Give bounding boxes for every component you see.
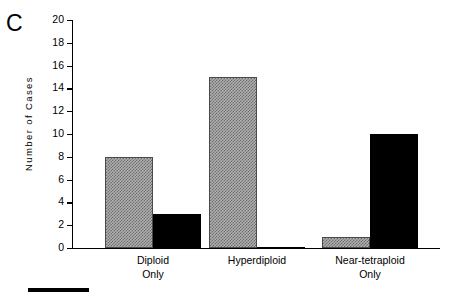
y-tick-label: 16 <box>34 59 64 72</box>
y-tick-label: 20 <box>34 13 64 26</box>
y-tick-label: 12 <box>34 104 64 117</box>
y-tick-mark <box>67 20 72 21</box>
y-tick-label: 2 <box>34 218 64 231</box>
bar-gray-1 <box>209 77 257 248</box>
scale-bar <box>28 288 89 292</box>
y-tick-label: 8 <box>34 150 64 163</box>
y-tick-mark <box>67 248 72 249</box>
bar-gray-0 <box>105 157 153 248</box>
plot-area: 02468101214161820 <box>72 20 440 248</box>
y-tick-mark <box>67 157 72 158</box>
category-label-line2: Only <box>85 267 221 281</box>
y-tick-mark <box>67 43 72 44</box>
bar-black-1 <box>257 247 305 248</box>
y-tick-mark <box>67 225 72 226</box>
y-axis-title: Number of Cases <box>23 59 34 189</box>
panel-letter: C <box>6 12 23 35</box>
y-tick-mark <box>67 202 72 203</box>
bar-gray-2 <box>322 237 370 248</box>
category-label-line2: Only <box>302 267 438 281</box>
y-tick-mark <box>67 88 72 89</box>
y-tick-label: 10 <box>34 127 64 140</box>
category-label-line1: Near-tetraploid <box>302 253 438 267</box>
bar-black-2 <box>370 134 418 248</box>
y-tick-label: 18 <box>34 36 64 49</box>
y-tick-label: 4 <box>34 195 64 208</box>
category-label-2: Near-tetraploidOnly <box>302 253 438 281</box>
y-tick-label: 6 <box>34 173 64 186</box>
y-axis-line <box>72 20 73 248</box>
y-tick-mark <box>67 180 72 181</box>
y-tick-mark <box>67 111 72 112</box>
bar-black-0 <box>153 214 201 248</box>
y-tick-label: 14 <box>34 81 64 94</box>
y-tick-label: 0 <box>34 241 64 254</box>
y-tick-mark <box>67 66 72 67</box>
y-tick-mark <box>67 134 72 135</box>
x-axis-line <box>72 248 440 249</box>
figure-panel-c: C Number of Cases 02468101214161820 Dipl… <box>0 0 450 303</box>
